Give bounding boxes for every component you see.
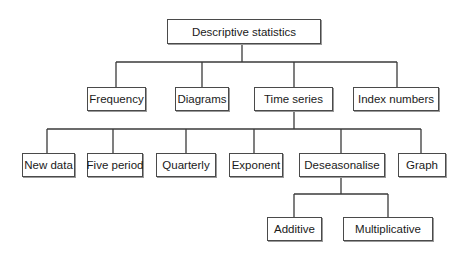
node-descriptive-statistics: Descriptive statistics <box>167 19 321 44</box>
node-label: Index numbers <box>358 93 434 105</box>
node-five-period: Five period <box>87 153 143 177</box>
node-multiplicative: Multiplicative <box>343 217 433 241</box>
node-time-series: Time series <box>254 87 333 111</box>
node-label: Graph <box>406 159 438 171</box>
node-exponent: Exponent <box>229 153 283 177</box>
tree-diagram: Descriptive statistics Frequency Diagram… <box>0 0 468 254</box>
node-label: Quarterly <box>162 159 209 171</box>
node-deseasonalise: Deseasonalise <box>299 153 385 177</box>
node-frequency: Frequency <box>87 87 146 111</box>
node-additive: Additive <box>267 217 322 241</box>
node-label: Frequency <box>89 93 143 105</box>
node-new-data: New data <box>22 153 75 177</box>
node-label: Five period <box>87 159 144 171</box>
node-quarterly: Quarterly <box>156 153 216 177</box>
node-index-numbers: Index numbers <box>353 87 439 111</box>
node-label: Diagrams <box>177 93 226 105</box>
node-label: Descriptive statistics <box>192 26 296 38</box>
node-label: Time series <box>264 93 323 105</box>
node-label: Exponent <box>232 159 281 171</box>
node-label: Deseasonalise <box>304 159 379 171</box>
node-label: Multiplicative <box>355 223 421 235</box>
node-label: Additive <box>274 223 315 235</box>
node-graph: Graph <box>398 153 446 177</box>
node-label: New data <box>24 159 73 171</box>
node-diagrams: Diagrams <box>175 87 229 111</box>
